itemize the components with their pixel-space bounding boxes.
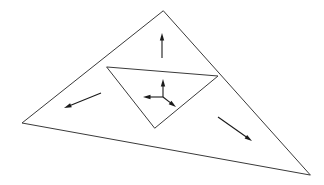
center-left-arrow bbox=[143, 95, 163, 99]
triangle-diagram-svg bbox=[0, 0, 324, 185]
center-down-right-arrow-shaft bbox=[163, 97, 171, 103]
center-up-arrow bbox=[161, 79, 165, 97]
top-region-arrow bbox=[160, 33, 164, 58]
center-up-arrow-head bbox=[161, 79, 165, 87]
outer-triangle-edges bbox=[22, 11, 310, 175]
right-region-arrow-head bbox=[245, 135, 252, 141]
left-region-arrow bbox=[64, 93, 101, 108]
arrow-layer bbox=[64, 33, 252, 141]
top-region-arrow-head bbox=[160, 33, 164, 41]
center-left-arrow-head bbox=[143, 95, 151, 99]
center-down-right-arrow bbox=[163, 97, 176, 107]
right-region-arrow bbox=[218, 117, 252, 141]
diagram-canvas bbox=[0, 0, 324, 185]
left-region-arrow-shaft bbox=[70, 93, 101, 106]
left-region-arrow-head bbox=[64, 103, 72, 108]
right-region-arrow-shaft bbox=[218, 117, 247, 138]
